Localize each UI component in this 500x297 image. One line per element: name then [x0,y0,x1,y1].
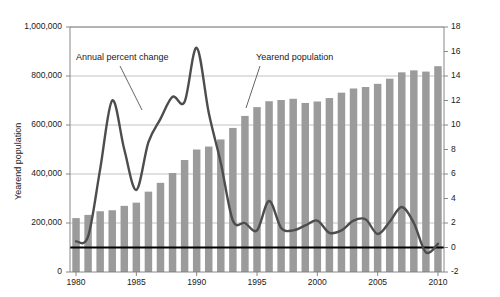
y-axis-right-tick-label: 10 [451,119,481,129]
x-axis-tick-label: 1985 [116,277,156,287]
y-axis-right-tick-label: 18 [451,21,481,31]
bar [133,203,140,272]
bar [338,93,345,272]
bar [169,173,176,272]
bar [145,192,152,272]
bar [422,72,429,272]
y-axis-right-tick-label: 6 [451,168,481,178]
y-axis-left-tick-label: 600,000 [6,119,62,129]
bar [205,147,212,272]
y-axis-left-tick-label: 0 [6,266,62,276]
annotation-yearend-population: Yearend population [256,52,333,62]
bar [362,87,369,272]
bar [265,101,272,272]
x-axis-tick-label: 1995 [237,277,277,287]
y-axis-right-tick-label: -2 [451,266,481,276]
x-axis-tick-label: 2010 [418,277,458,287]
y-axis-right-tick-label: 8 [451,144,481,154]
bar [72,218,79,272]
y-axis-right-tick-label: 2 [451,217,481,227]
y-axis-right-tick-label: 12 [451,95,481,105]
y-axis-right-tick-label: 16 [451,46,481,56]
bar [181,160,188,272]
bar [350,88,357,272]
bar [289,99,296,272]
bar [157,183,164,272]
bar [410,70,417,272]
y-axis-right-tick-label: 4 [451,193,481,203]
x-axis-tick-label: 1980 [56,277,96,287]
chart-plot-area [0,0,500,297]
bar [193,150,200,273]
annotation-annual-percent-change: Annual percent change [76,52,169,62]
bar [326,98,333,272]
x-axis-tick-label: 2005 [358,277,398,287]
y-axis-left-tick-label: 400,000 [6,168,62,178]
y-axis-right-tick-label: 14 [451,70,481,80]
y-axis-right-tick-label: 0 [451,242,481,252]
bar [277,100,284,272]
y-axis-left-tick-label: 200,000 [6,217,62,227]
bar [96,211,103,272]
y-axis-left-tick-label: 800,000 [6,70,62,80]
bar [386,79,393,272]
bar [229,128,236,272]
bar [121,206,128,272]
bar [374,84,381,272]
bar [108,210,115,272]
x-axis-tick-label: 2000 [297,277,337,287]
x-axis-tick-label: 1990 [177,277,217,287]
y-axis-left-tick-label: 1,000,000 [6,21,62,31]
chart-figure: Yearend population 0200,000400,000600,00… [0,0,500,297]
bar [434,66,441,272]
bar [398,72,405,272]
